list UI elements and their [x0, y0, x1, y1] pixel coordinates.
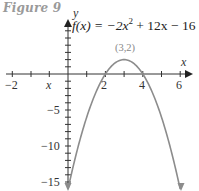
x-tick-label-4: 4	[139, 78, 145, 93]
y-tick-label-neg5: −5	[47, 103, 60, 118]
x-tick-label-neg2: −2	[5, 78, 18, 93]
x-tick-label-2: 2	[101, 78, 107, 93]
curve-right-arrow-icon	[178, 183, 185, 191]
x-axis	[6, 71, 186, 77]
function-equation: f(x) = −2x2 + 12x − 16	[72, 16, 195, 34]
curve-left-arrow-icon	[65, 183, 72, 191]
x-tick-label-6: 6	[176, 78, 182, 93]
equation-suffix: + 12x − 16	[133, 18, 195, 33]
vertex-label: (3,2)	[115, 42, 135, 53]
x-axis-arrow-icon	[185, 70, 193, 78]
y-tick-label-neg15: −15	[41, 175, 60, 190]
y-axis-arrow-icon	[64, 19, 72, 27]
x-axis-label: x	[181, 55, 186, 70]
x-tick-label-x: x	[46, 78, 51, 93]
y-tick-label-neg10: −10	[41, 139, 60, 154]
parabola-curve	[68, 60, 180, 190]
equation-prefix: f(x) = −2x	[72, 18, 128, 33]
